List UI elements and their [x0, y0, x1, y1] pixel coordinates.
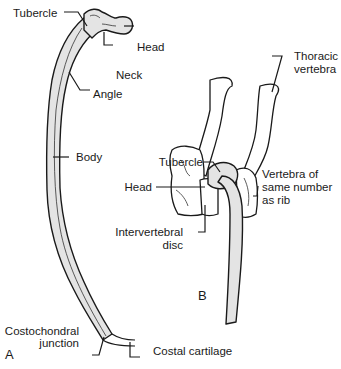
label-vertebra-of-b: Vertebra of [262, 168, 319, 180]
label-as-rib-b: as rib [262, 194, 290, 206]
label-angle-a: Angle [93, 88, 122, 100]
label-body-a: Body [76, 151, 102, 163]
label-costal-cartilage-a: Costal cartilage [153, 345, 232, 357]
label-head-a: Head [137, 41, 165, 53]
panel-letter-b: B [198, 288, 207, 303]
label-thoracic-b: Thoracic [294, 50, 338, 62]
panel-a-rib [47, 9, 135, 346]
label-intervertebral-b: Intervertebral [115, 226, 183, 238]
label-same-number-b: same number [262, 181, 332, 193]
label-tubercle-a: Tubercle [13, 7, 57, 19]
label-tubercle-b: Tubercle [159, 156, 203, 168]
label-head-b: Head [125, 181, 153, 193]
label-vertebra-b: vertebra [294, 63, 337, 75]
label-costochondral-a: Costochondral [5, 325, 79, 337]
label-disc-b: disc [163, 239, 184, 251]
label-junction-a: junction [38, 337, 79, 349]
label-neck-a: Neck [116, 69, 142, 81]
rib-diagram: Tubercle Head Neck Angle Body Costochond… [0, 0, 341, 369]
panel-letter-a: A [5, 347, 14, 362]
